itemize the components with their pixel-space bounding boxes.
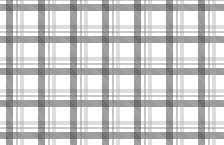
plaid-pattern-image: Gray and white plaid / gingham fabric pa… — [0, 0, 224, 145]
weave-texture — [0, 0, 224, 145]
